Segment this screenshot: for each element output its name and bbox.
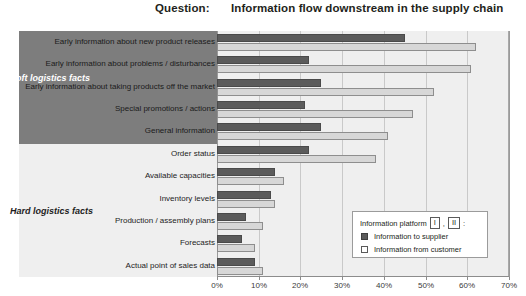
tick-label-0%: 0% <box>211 281 223 290</box>
bar <box>217 155 376 163</box>
legend-title-text: Information platform <box>360 219 427 228</box>
tick-70% <box>509 277 510 280</box>
bar <box>217 200 275 208</box>
bar <box>217 222 263 230</box>
bar <box>217 267 263 275</box>
tick-label-40%: 40% <box>376 281 392 290</box>
bar <box>217 34 405 42</box>
bar <box>217 56 309 64</box>
bar <box>217 258 255 266</box>
bar <box>217 101 305 109</box>
legend-suffix: : <box>463 219 465 228</box>
tick-60% <box>467 277 468 280</box>
legend: Information platform I , II : Informatio… <box>352 211 488 258</box>
tick-10% <box>259 277 260 280</box>
page-title: Information flow downstream in the suppl… <box>231 2 503 14</box>
x-axis-line <box>217 276 509 277</box>
category-label: Available capacities <box>145 171 215 180</box>
category-label: General information <box>145 126 215 135</box>
category-label: Inventory levels <box>159 194 215 203</box>
bar <box>217 123 321 131</box>
bar <box>217 168 275 176</box>
tick-label-50%: 50% <box>418 281 434 290</box>
tick-label-20%: 20% <box>292 281 308 290</box>
tick-20% <box>300 277 301 280</box>
chart-root: Question: Information flow downstream in… <box>0 0 526 296</box>
category-label: Order status <box>171 149 215 158</box>
legend-item-from-customer: Information from customer <box>361 245 462 254</box>
bar <box>217 65 471 73</box>
tick-50% <box>426 277 427 280</box>
bar <box>217 244 255 252</box>
chart-header: Question: Information flow downstream in… <box>0 0 526 22</box>
category-labels: Early information about new product rele… <box>19 31 217 277</box>
legend-label-from-customer: Information from customer <box>374 245 462 254</box>
legend-label-to-supplier: Information to supplier <box>374 232 448 241</box>
tick-0% <box>217 277 218 280</box>
bar <box>217 88 434 96</box>
bar <box>217 132 388 140</box>
category-label: Early information about problems / distu… <box>46 59 215 68</box>
legend-swatch-dark-icon <box>361 233 368 240</box>
category-label: Production / assembly plans <box>115 216 215 225</box>
category-label: Actual point of sales data <box>126 261 215 270</box>
bar <box>217 43 476 51</box>
bar <box>217 110 413 118</box>
bar <box>217 146 309 154</box>
tick-label-10%: 10% <box>251 281 267 290</box>
bar <box>217 213 246 221</box>
group-label-hard: Hard logistics facts <box>10 206 93 216</box>
tick-label-70%: 70% <box>501 281 517 290</box>
bar <box>217 177 284 185</box>
platform-1-badge: I <box>430 217 440 229</box>
tick-label-30%: 30% <box>334 281 350 290</box>
bar <box>217 191 271 199</box>
bar <box>217 79 321 87</box>
tick-label-60%: 60% <box>459 281 475 290</box>
tick-30% <box>342 277 343 280</box>
platform-2-badge: II <box>448 217 460 229</box>
category-label: Forecasts <box>180 238 215 247</box>
question-label: Question: <box>155 2 210 14</box>
category-label: Early information about new product rele… <box>54 37 215 46</box>
legend-swatch-light-icon <box>361 246 368 253</box>
legend-separator: , <box>443 219 445 228</box>
bar <box>217 235 242 243</box>
group-label-soft: Soft logistics facts <box>10 73 90 83</box>
gridline-70% <box>509 31 510 277</box>
legend-title: Information platform I , II : <box>360 217 465 229</box>
tick-40% <box>384 277 385 280</box>
category-label: Special promotions / actions <box>115 104 215 113</box>
legend-item-to-supplier: Information to supplier <box>361 232 448 241</box>
category-label: Early information about taking products … <box>25 82 215 91</box>
